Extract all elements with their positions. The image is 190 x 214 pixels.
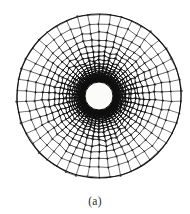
- mesh-drawing: [0, 0, 190, 190]
- caption-row: (a): [0, 190, 190, 214]
- figure-panel: (a): [0, 0, 190, 214]
- figure-caption: (a): [88, 196, 101, 208]
- center-hole: [85, 82, 113, 110]
- radial-mesh-figure: [0, 0, 190, 190]
